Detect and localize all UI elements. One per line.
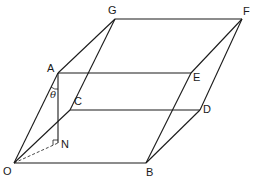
label-O: O xyxy=(3,166,12,177)
label-N: N xyxy=(61,139,69,150)
edge-OC xyxy=(14,110,70,163)
label-E: E xyxy=(193,72,200,83)
label-G: G xyxy=(108,5,117,16)
edge-OA xyxy=(14,73,58,163)
label-B: B xyxy=(146,167,153,178)
label-C: C xyxy=(74,96,82,107)
edge-BE xyxy=(146,73,191,163)
edge-DF xyxy=(200,19,242,110)
label-D: D xyxy=(203,104,211,115)
label-A: A xyxy=(47,63,54,74)
angle-theta-label: θ xyxy=(50,90,56,100)
parallelepiped-diagram xyxy=(0,0,253,188)
edge-EF xyxy=(191,19,242,73)
edge-AG xyxy=(58,19,115,73)
edge-ON-dashed xyxy=(14,143,58,163)
edge-BD xyxy=(146,110,200,163)
label-F: F xyxy=(243,6,250,17)
